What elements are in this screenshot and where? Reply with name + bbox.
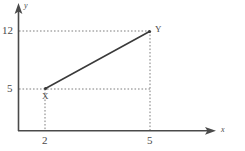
x-axis-label: x	[221, 126, 225, 134]
x-tick-label-5: 5	[147, 135, 153, 146]
y-tick-label-5: 5	[7, 83, 13, 94]
point-marker-y	[148, 30, 151, 33]
y-axis-label: y	[24, 2, 28, 10]
x-tick-label-2: 2	[42, 135, 48, 146]
plot-canvas	[0, 0, 245, 151]
point-marker-x	[44, 87, 47, 90]
y-tick-label-12: 12	[2, 25, 13, 36]
point-label-y: Y	[155, 25, 162, 34]
segment-xy	[46, 32, 150, 89]
coordinate-plane-figure: 12 5 2 5 X Y y x	[0, 0, 245, 151]
point-label-x: X	[42, 92, 49, 101]
